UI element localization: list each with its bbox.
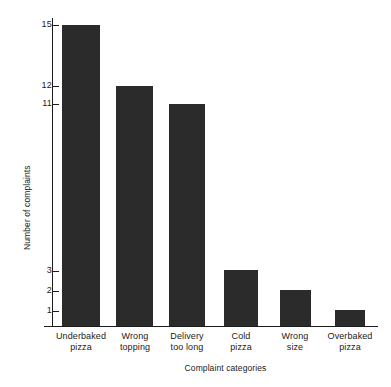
bar-cold-pizza: [224, 270, 258, 326]
y-tick-label: 11: [18, 99, 52, 108]
x-axis-title: Complaint categories: [185, 363, 267, 373]
y-tick-mark: [53, 311, 59, 312]
y-axis-title: Number of complaints: [22, 165, 32, 250]
y-tick-label: 1: [18, 306, 52, 315]
bar-delivery-too-long: [169, 104, 205, 326]
y-tick-label: 3: [18, 266, 52, 275]
bar-wrong-size: [280, 290, 311, 326]
x-axis-line: [44, 326, 378, 327]
x-category-label-line1: Overbaked: [310, 331, 390, 342]
x-axis-title-wrap: Complaint categories: [0, 363, 391, 373]
y-tick-mark: [53, 291, 59, 292]
x-category-label-line2: pizza: [310, 342, 390, 353]
bar-overbaked-pizza: [335, 310, 365, 326]
y-tick-mark: [53, 86, 59, 87]
bar-wrong-topping: [116, 86, 153, 326]
y-tick-mark: [53, 271, 59, 272]
y-tick-mark: [53, 104, 59, 105]
y-axis-title-wrap: Number of complaints: [10, 120, 24, 250]
bar-chart: 15 12 11 3 2 1 Underbaked pizza Wrong to…: [0, 0, 391, 387]
y-axis-line: [52, 18, 53, 327]
y-tick-label: 12: [18, 81, 52, 90]
y-tick-label: 15: [18, 20, 52, 29]
y-tick-mark: [53, 25, 59, 26]
x-category-label: Overbaked pizza: [310, 331, 390, 353]
bar-underbaked-pizza: [62, 25, 100, 326]
y-tick-label: 2: [18, 286, 52, 295]
